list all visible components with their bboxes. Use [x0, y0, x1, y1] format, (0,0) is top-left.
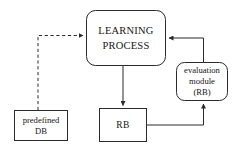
edge-evaluation-module-to-learning-process — [169, 38, 204, 62]
node-shape-rb — [100, 109, 147, 142]
node-shape-predefined-db — [15, 111, 68, 141]
diagram-graphics — [0, 0, 243, 151]
edge-rb-to-evaluation-module — [147, 104, 204, 125]
edge-predefined-db-to-learning-process — [38, 36, 83, 111]
node-shape-learning-process — [87, 11, 166, 66]
node-shape-evaluation-module — [177, 63, 228, 101]
diagram-canvas: LEARNING PROCESS evaluation module (RB) … — [0, 0, 243, 151]
